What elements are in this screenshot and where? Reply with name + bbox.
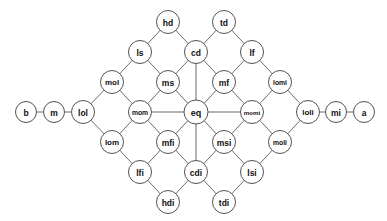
graph-node-cdi[interactable]: cdi	[185, 161, 208, 184]
node-label: mf	[219, 78, 230, 88]
node-label: mfi	[162, 138, 175, 148]
node-label: lf	[249, 48, 254, 58]
node-label: b	[23, 108, 28, 118]
graph-edge	[288, 90, 300, 103]
graph-edge	[260, 90, 272, 103]
node-label: a	[362, 108, 367, 118]
graph-edge	[232, 60, 244, 73]
graph-edge	[288, 120, 300, 133]
graph-edge	[204, 121, 216, 134]
graph-node-hd[interactable]: hd	[157, 11, 180, 34]
graph-node-msi[interactable]: msi	[213, 131, 236, 154]
node-label: lfi	[136, 168, 144, 178]
graph-edge	[260, 120, 272, 133]
graph-node-mol[interactable]: mol	[101, 71, 124, 94]
node-label: td	[220, 18, 228, 28]
graph-edge	[148, 150, 160, 163]
graph-node-mf[interactable]: mf	[213, 71, 236, 94]
graph-edge	[204, 180, 216, 193]
graph-edge	[260, 60, 272, 73]
graph-edge	[91, 90, 104, 103]
graph-edge	[120, 120, 132, 133]
graph-edge	[176, 60, 188, 73]
node-label: lsi	[247, 168, 256, 178]
graph-node-ms[interactable]: ms	[157, 71, 180, 94]
node-label: m	[50, 108, 58, 118]
graph-node-lfi[interactable]: lfi	[129, 161, 152, 184]
graph-node-mfi[interactable]: mfi	[157, 131, 180, 154]
lattice-diagram: bmlolmollomlsmomlfihdmsmfihdicdeqcditdmf…	[0, 0, 387, 221]
node-label: cd	[191, 48, 201, 58]
graph-edge	[232, 30, 244, 43]
node-label: eq	[191, 108, 202, 118]
node-label: cdi	[190, 168, 202, 178]
graph-edge	[232, 90, 244, 103]
node-label: lom	[105, 138, 119, 147]
graph-node-tdi[interactable]: tdi	[213, 191, 236, 214]
graph-edge	[148, 30, 160, 43]
graph-edge	[176, 30, 188, 43]
node-label: mol	[105, 78, 119, 87]
graph-edge	[120, 90, 132, 103]
node-label: msi	[217, 138, 232, 148]
graph-edge	[148, 60, 160, 73]
graph-edge	[148, 120, 160, 133]
node-label: moli	[273, 139, 287, 146]
graph-edge	[91, 120, 104, 133]
graph-node-ls[interactable]: ls	[129, 41, 152, 64]
graph-node-lom[interactable]: lom	[101, 131, 124, 154]
node-label: momi	[244, 109, 261, 116]
graph-edge	[148, 180, 160, 193]
graph-node-lf[interactable]: lf	[241, 41, 264, 64]
graph-edge	[120, 150, 132, 163]
graph-node-loli[interactable]: loli	[297, 101, 320, 124]
graph-edge	[204, 60, 216, 73]
graph-node-m[interactable]: m	[44, 102, 65, 123]
graph-node-lomi[interactable]: lomi	[269, 71, 292, 94]
graph-node-moli[interactable]: moli	[269, 131, 292, 154]
graph-edge	[120, 60, 132, 73]
node-label: tdi	[219, 198, 229, 208]
node-label: loli	[302, 108, 314, 117]
graph-node-eq[interactable]: eq	[184, 100, 208, 124]
node-label: lol	[78, 108, 88, 118]
node-label: hdi	[162, 198, 175, 208]
graph-edge	[204, 150, 216, 163]
node-label: ls	[136, 48, 143, 58]
graph-node-mom[interactable]: mom	[129, 101, 152, 124]
graph-node-mi[interactable]: mi	[326, 102, 347, 123]
graph-edge	[232, 180, 244, 193]
node-label: hd	[163, 18, 173, 28]
graph-edge	[176, 150, 188, 163]
graph-edge	[176, 121, 188, 134]
node-label: mi	[331, 108, 341, 118]
graph-node-momi[interactable]: momi	[241, 101, 264, 124]
graph-edge	[176, 90, 188, 103]
graph-edge	[204, 90, 216, 103]
graph-edge	[232, 120, 244, 133]
graph-node-hdi[interactable]: hdi	[157, 191, 180, 214]
node-label: lomi	[273, 79, 287, 86]
graph-edge	[260, 150, 272, 163]
graph-node-b[interactable]: b	[16, 102, 37, 123]
node-label: mom	[132, 109, 148, 116]
node-label: ms	[162, 78, 175, 88]
graph-node-td[interactable]: td	[213, 11, 236, 34]
graph-node-cd[interactable]: cd	[185, 41, 208, 64]
graph-node-lol[interactable]: lol	[72, 101, 95, 124]
graph-edge	[232, 150, 244, 163]
graph-canvas: bmlolmollomlsmomlfihdmsmfihdicdeqcditdmf…	[0, 0, 387, 221]
graph-edge	[204, 30, 216, 43]
graph-edge	[148, 90, 160, 103]
graph-node-lsi[interactable]: lsi	[241, 161, 264, 184]
graph-node-a[interactable]: a	[354, 102, 375, 123]
graph-edge	[176, 180, 188, 193]
